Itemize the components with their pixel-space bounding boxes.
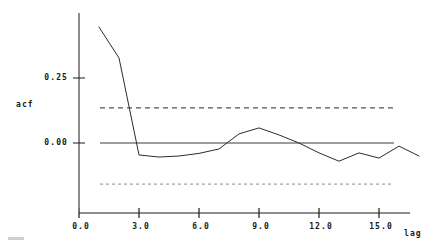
x-axis-title: lag xyxy=(404,229,422,238)
x-tick-label: 15.0 xyxy=(365,222,397,231)
series-lines xyxy=(99,27,419,161)
x-tick-label: 6.0 xyxy=(185,222,217,231)
y-tick-label: 0.00 xyxy=(28,138,68,147)
acf-series-line xyxy=(99,27,419,161)
reference-lines xyxy=(100,108,394,184)
x-tick-label: 3.0 xyxy=(125,222,157,231)
axes-group xyxy=(79,13,410,213)
corner-artifact xyxy=(8,237,24,240)
acf-plot-figure: 0.250.000.03.06.09.012.015.0 acf lag xyxy=(0,0,442,247)
x-tick-label: 9.0 xyxy=(245,222,277,231)
chart-canvas xyxy=(0,0,442,247)
x-tick-label: 12.0 xyxy=(305,222,337,231)
x-tick-label: 0.0 xyxy=(65,222,97,231)
y-axis-title: acf xyxy=(16,100,34,109)
y-tick-label: 0.25 xyxy=(28,73,68,82)
